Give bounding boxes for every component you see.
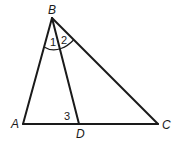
segment-bc [52,18,158,124]
angle-label-3: 3 [64,110,70,122]
angle-label-1: 1 [50,36,56,48]
segment-ab [23,18,52,124]
vertex-label-a: A [10,117,19,131]
vertex-label-c: C [162,118,171,132]
vertex-label-d: D [76,127,85,141]
triangle-diagram: B A C D 1 2 3 [0,0,177,141]
vertex-label-b: B [48,3,56,17]
angle-label-2: 2 [61,34,67,46]
